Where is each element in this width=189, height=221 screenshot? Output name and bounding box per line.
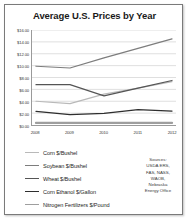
legend-color-swatch	[25, 165, 39, 167]
y-axis-tick-label: $4.00	[19, 100, 29, 105]
series-lines	[36, 39, 172, 123]
chart-svg	[32, 30, 176, 125]
sources-note: Sources: USDA ERS,FAS, NASS,WAOB,Nebrask…	[134, 157, 182, 195]
y-axis-tick-label: $8.00	[19, 76, 29, 81]
x-axis-tick-label: 2010	[99, 130, 108, 135]
legend-color-swatch	[25, 204, 39, 206]
legend-item[interactable]: Corn $/Bushel	[25, 146, 145, 159]
legend-label: Corn $/Bushel	[43, 150, 77, 156]
legend-label: Wheat $/Bushel	[43, 176, 81, 182]
chart-legend: Corn $/BushelSoybean $/BushelWheat $/Bus…	[25, 146, 145, 211]
legend-color-swatch	[25, 178, 39, 180]
series-line	[36, 110, 172, 115]
legend-color-swatch	[25, 191, 39, 193]
legend-label: Corn Ethanol $/Gallon	[43, 189, 96, 195]
legend-item[interactable]: Soybean $/Bushel	[25, 159, 145, 172]
legend-label: Soybean $/Bushel	[43, 163, 87, 169]
gridlines	[32, 30, 176, 113]
y-axis-tick-label: $10.00	[17, 64, 29, 69]
legend-item[interactable]: Nitrogen Fertilizers $/Pound	[25, 198, 145, 211]
plot-area: $0.00$2.00$4.00$6.00$8.00$10.00$12.00$14…	[5, 26, 184, 144]
y-axis-tick-label: $0.00	[19, 124, 29, 129]
chart-title: Average U.S. Prices by Year	[5, 10, 184, 21]
y-axis-tick-label: $6.00	[19, 88, 29, 93]
y-axis-tick-label: $2.00	[19, 112, 29, 117]
x-axis-tick-label: 2008	[31, 130, 40, 135]
y-axis-tick-label: $16.00	[17, 28, 29, 33]
x-axis-tick-label: 2009	[65, 130, 74, 135]
x-axis-tick-label: 2012	[168, 130, 177, 135]
x-axis-tick-label: 2011	[134, 130, 142, 135]
y-axis-tick-label: $12.00	[17, 52, 29, 57]
sources-line: Energy Office	[134, 188, 182, 194]
legend-item[interactable]: Corn Ethanol $/Gallon	[25, 185, 145, 198]
legend-item[interactable]: Wheat $/Bushel	[25, 172, 145, 185]
legend-label: Nitrogen Fertilizers $/Pound	[43, 202, 110, 208]
chart-card: Average U.S. Prices by Year $0.00$2.00$4…	[4, 4, 183, 215]
y-axis-tick-label: $14.00	[17, 40, 29, 45]
y-axis-labels: $0.00$2.00$4.00$6.00$8.00$10.00$12.00$14…	[5, 26, 30, 126]
x-axis-labels: 20082009201020112012	[31, 130, 176, 140]
plot-canvas	[31, 30, 176, 126]
legend-color-swatch	[25, 152, 39, 154]
